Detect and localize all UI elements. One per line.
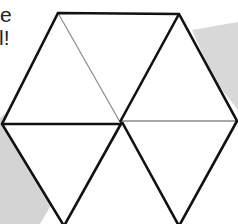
hexagon-diagram: [0, 0, 238, 224]
diagram-canvas: e l!: [0, 0, 238, 224]
hexagon-fill: [2, 13, 237, 224]
